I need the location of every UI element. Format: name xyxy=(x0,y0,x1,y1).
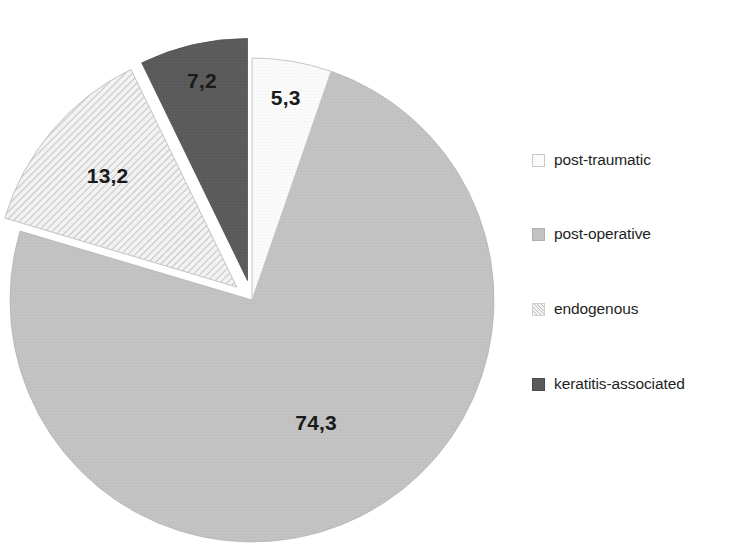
legend-swatch-keratitis-associated-icon xyxy=(532,378,545,391)
slice-value-label-post-traumatic: 5,3 xyxy=(271,86,301,109)
legend-label-keratitis-associated: keratitis-associated xyxy=(554,376,685,392)
legend-label-post-operative: post-operative xyxy=(554,226,651,242)
legend-item-post-operative[interactable]: post-operative xyxy=(532,224,651,244)
chart-legend: post-traumatic post-operative endogenous… xyxy=(532,140,743,410)
slice-value-label-post-operative: 74,3 xyxy=(295,411,337,434)
legend-swatch-endogenous-icon xyxy=(532,303,545,316)
legend-swatch-post-operative-icon xyxy=(532,228,545,241)
legend-label-post-traumatic: post-traumatic xyxy=(554,152,651,168)
legend-item-post-traumatic[interactable]: post-traumatic xyxy=(532,150,651,170)
legend-label-endogenous: endogenous xyxy=(554,301,638,317)
pie-slices xyxy=(5,39,494,542)
pie-chart: 5,3 74,3 13,2 7,2 post-traumatic post-op… xyxy=(0,0,743,550)
legend-item-keratitis-associated[interactable]: keratitis-associated xyxy=(532,374,685,394)
slice-value-label-endogenous: 13,2 xyxy=(87,164,129,187)
legend-swatch-post-traumatic-icon xyxy=(532,154,545,167)
legend-item-endogenous[interactable]: endogenous xyxy=(532,299,638,319)
slice-value-label-keratitis-associated: 7,2 xyxy=(187,69,217,92)
